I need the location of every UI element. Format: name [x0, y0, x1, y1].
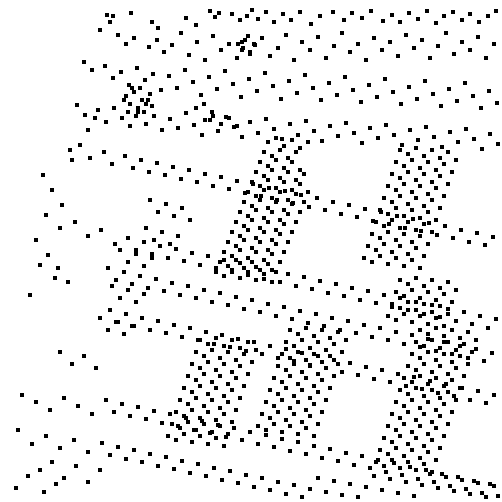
scatter-plot-container — [0, 0, 502, 502]
scatter-dot-layer — [0, 0, 502, 502]
